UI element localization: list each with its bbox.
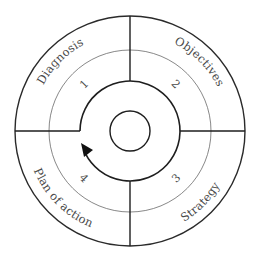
core-circle	[110, 111, 150, 151]
step-number-4: 4	[77, 171, 91, 185]
label-diagnosis: Diagnosis	[34, 35, 86, 87]
label-strategy: Strategy	[178, 179, 223, 224]
step-number-3: 3	[169, 171, 183, 185]
step-number-2: 2	[169, 77, 183, 91]
cycle-diagram: Diagnosis Objectives Strategy Plan of ac…	[0, 0, 261, 262]
cycle-arrow-arc	[80, 81, 180, 181]
cycle-arrowhead-icon	[81, 143, 93, 157]
step-number-1: 1	[77, 77, 91, 91]
cycle-diagram-svg: Diagnosis Objectives Strategy Plan of ac…	[0, 0, 261, 262]
